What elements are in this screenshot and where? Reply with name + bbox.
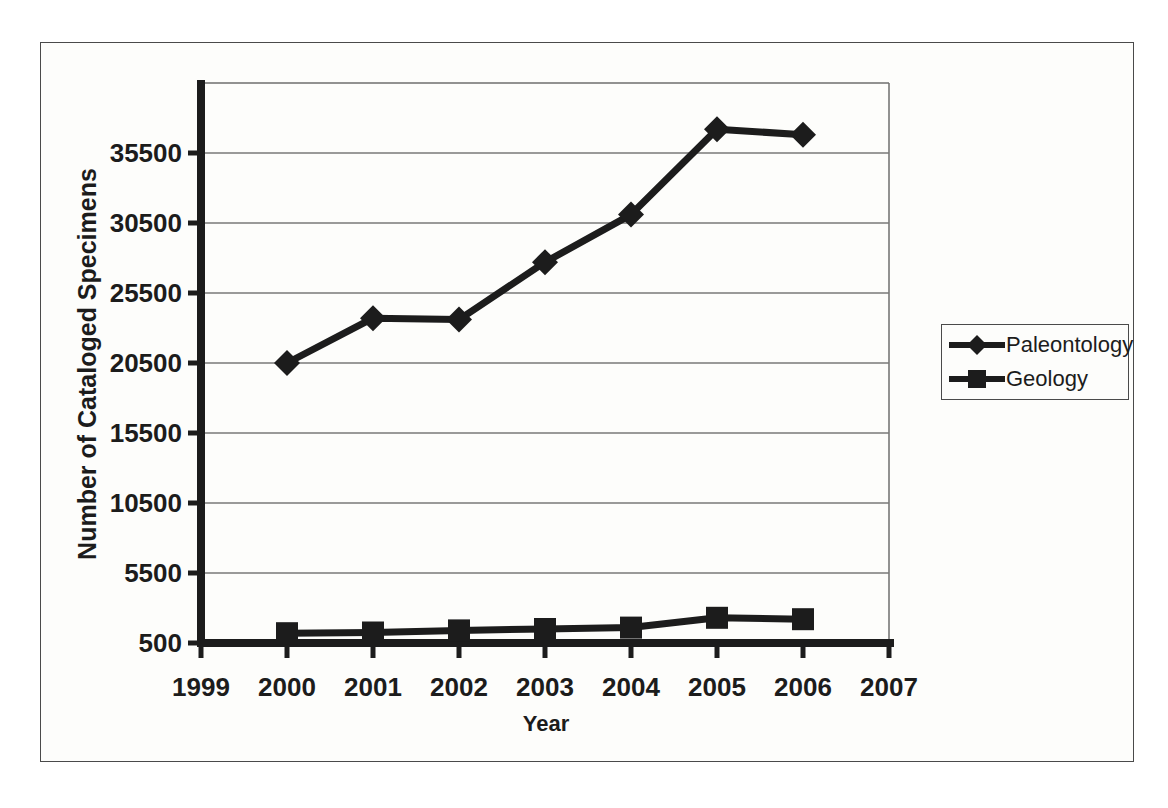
legend-label-paleontology: Paleontology (1006, 332, 1133, 358)
y-tick-label: 500 (139, 628, 182, 658)
paleontology-marker (360, 305, 386, 331)
figure-border: 5005500105001550020500255003050035500199… (40, 42, 1134, 762)
geology-marker (706, 607, 728, 629)
geology-marker (534, 618, 556, 640)
geology-marker (448, 619, 470, 641)
paleontology-line (287, 129, 803, 363)
y-tick-label: 20500 (110, 348, 182, 378)
y-tick-label: 5500 (124, 558, 182, 588)
geology-marker (620, 617, 642, 639)
legend: Paleontology Geology (941, 324, 1129, 400)
y-tick-label: 35500 (110, 138, 182, 168)
square-marker-icon (968, 370, 986, 388)
paleontology-swatch-icon (948, 330, 1006, 360)
paleontology-marker (790, 122, 816, 148)
x-tick-label: 2004 (602, 672, 660, 702)
y-tick-label: 15500 (110, 418, 182, 448)
geology-marker (792, 608, 814, 630)
x-tick-label: 2001 (344, 672, 402, 702)
y-tick-label: 25500 (110, 278, 182, 308)
x-tick-label: 1999 (172, 672, 230, 702)
diamond-marker-icon (967, 335, 987, 355)
legend-item-geology: Geology (948, 362, 1128, 396)
chart-svg: 5005500105001550020500255003050035500199… (41, 43, 1133, 761)
x-tick-label: 2005 (688, 672, 746, 702)
geology-marker (362, 622, 384, 644)
y-axis-title: Number of Cataloged Specimens (73, 168, 102, 560)
y-tick-label: 30500 (110, 208, 182, 238)
x-tick-label: 2007 (860, 672, 918, 702)
x-tick-label: 2000 (258, 672, 316, 702)
geology-marker (276, 622, 298, 644)
geology-swatch-icon (948, 364, 1006, 394)
legend-label-geology: Geology (1006, 366, 1088, 392)
x-tick-label: 2003 (516, 672, 574, 702)
x-tick-label: 2006 (774, 672, 832, 702)
x-tick-label: 2002 (430, 672, 488, 702)
y-tick-label: 10500 (110, 488, 182, 518)
legend-item-paleontology: Paleontology (948, 328, 1128, 362)
x-axis-title: Year (496, 711, 596, 737)
paleontology-marker (274, 350, 300, 376)
